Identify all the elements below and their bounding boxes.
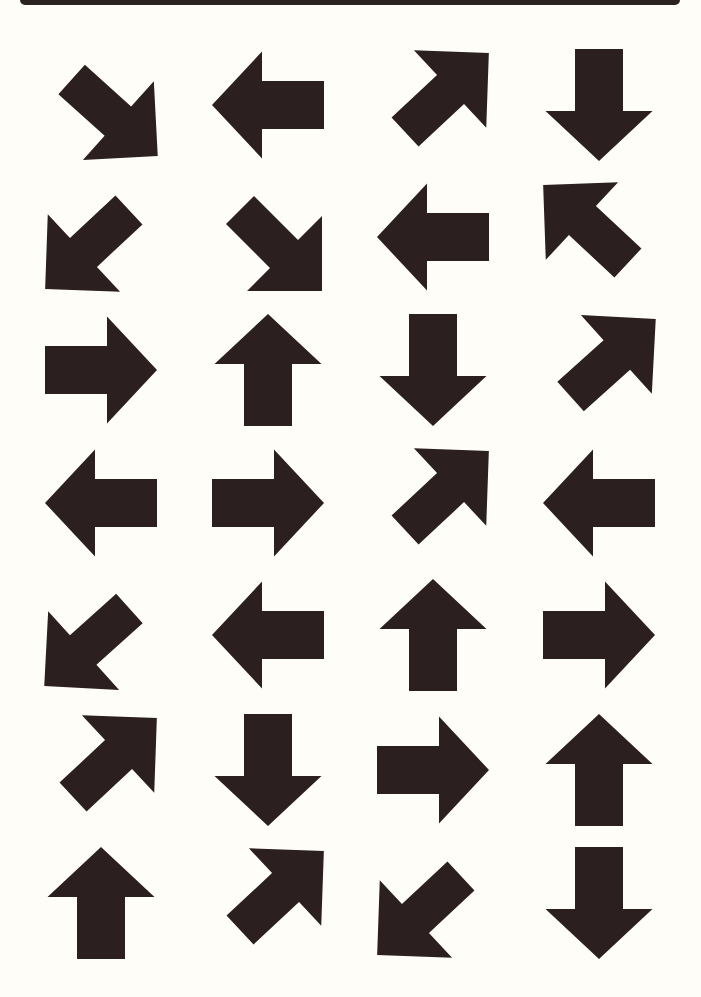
arrow-up-right-icon	[539, 310, 659, 430]
arrow-right-icon	[208, 443, 328, 563]
arrow-right-icon	[539, 575, 659, 695]
arrow-down-icon	[539, 843, 659, 963]
arrow-right-icon	[373, 710, 493, 830]
arrow-down-right-icon	[208, 177, 328, 297]
arrow-up-right-icon	[41, 710, 161, 830]
arrow-left-icon	[208, 575, 328, 695]
arrow-down-icon	[539, 45, 659, 165]
arrow-down-icon	[373, 310, 493, 430]
arrow-up-right-icon	[208, 843, 328, 963]
arrow-up-icon	[373, 575, 493, 695]
arrow-up-icon	[539, 710, 659, 830]
arrow-up-icon	[41, 843, 161, 963]
arrow-left-icon	[41, 443, 161, 563]
arrow-up-right-icon	[373, 45, 493, 165]
arrow-left-icon	[373, 177, 493, 297]
arrow-up-icon	[208, 310, 328, 430]
arrow-down-right-icon	[41, 45, 161, 165]
arrow-up-right-icon	[373, 443, 493, 563]
arrow-up-left-icon	[539, 177, 659, 297]
arrow-down-left-icon	[373, 843, 493, 963]
arrow-grid	[0, 0, 701, 997]
arrow-left-icon	[208, 45, 328, 165]
arrow-left-icon	[539, 443, 659, 563]
arrow-down-icon	[208, 710, 328, 830]
arrow-down-left-icon	[41, 575, 161, 695]
arrow-down-left-icon	[41, 177, 161, 297]
arrow-right-icon	[41, 310, 161, 430]
